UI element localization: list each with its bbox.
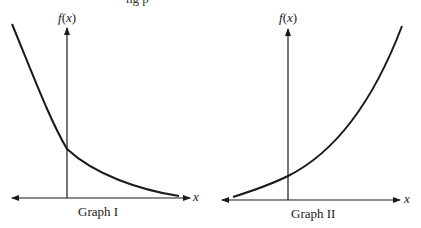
graph-2-caption: Graph II bbox=[291, 206, 335, 222]
graph-1 bbox=[12, 24, 190, 198]
graph-1-x-label: x bbox=[193, 189, 199, 205]
graph-2-curve bbox=[233, 26, 402, 197]
graph-1-curve bbox=[12, 24, 179, 196]
graphs-canvas bbox=[0, 0, 421, 228]
graph-2-x-label: x bbox=[404, 191, 410, 207]
graph-2 bbox=[222, 26, 402, 200]
graph-1-y-label: f(x) bbox=[58, 10, 76, 26]
graph-2-y-label: f(x) bbox=[279, 10, 297, 26]
graph-1-caption: Graph I bbox=[78, 204, 118, 220]
